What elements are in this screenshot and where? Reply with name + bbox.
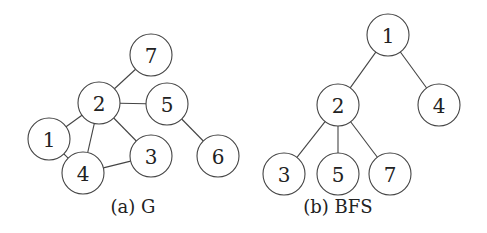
bfs-tree-nodes: 124357 [263,14,460,195]
node-2: 2 [78,82,120,124]
edge-2-7 [351,122,378,157]
node-label: 7 [145,44,158,68]
node-label: 4 [77,162,90,186]
edge-1-4 [64,154,68,158]
graph-g-nodes: 7251436 [28,34,239,194]
node-5: 5 [146,83,188,125]
edge-5-6 [182,119,204,141]
node-3: 3 [130,135,172,177]
node-label: 6 [212,145,225,169]
node-label: 4 [433,94,446,118]
edge-1-4 [400,52,426,88]
node-1: 1 [28,118,70,160]
node-label: 7 [384,163,397,187]
node-label: 1 [43,128,56,152]
node-label: 2 [332,94,345,118]
graph-figure: 7251436 (a) G 124357 (b) BFS [0,0,487,233]
caption-graph-g: (a) G [111,196,156,217]
node-label: 5 [332,163,345,187]
node-3: 3 [263,153,305,195]
node-4: 4 [418,84,460,126]
edge-7-2 [114,69,135,89]
node-1: 1 [367,14,409,56]
node-4: 4 [62,152,104,194]
edge-2-3 [114,118,137,141]
panel-bfs-tree: 124357 (b) BFS [263,14,460,217]
node-label: 5 [161,93,174,117]
edge-1-2 [350,52,376,88]
caption-bfs-tree: (b) BFS [303,196,372,217]
edge-4-3 [103,161,130,168]
node-5: 5 [317,153,359,195]
node-label: 1 [382,24,395,48]
node-7: 7 [130,34,172,76]
node-label: 3 [145,145,158,169]
edge-2-4 [88,123,95,152]
panel-graph-g: 7251436 (a) G [28,34,239,217]
node-label: 3 [278,163,291,187]
node-label: 2 [93,92,106,116]
node-2: 2 [317,84,359,126]
node-7: 7 [369,153,411,195]
edge-2-1 [66,115,82,126]
node-6: 6 [197,135,239,177]
edge-2-3 [297,122,325,158]
bfs-tree-edges [297,52,427,157]
